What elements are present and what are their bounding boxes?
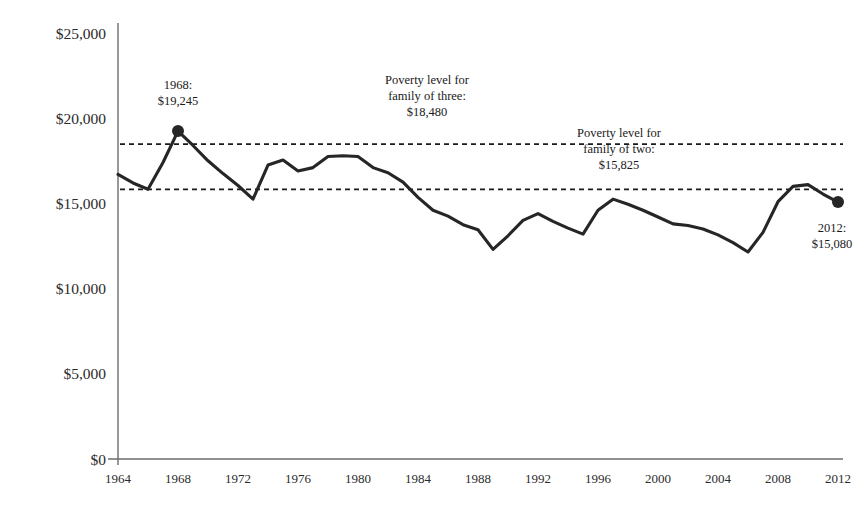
poverty-two-annotation: Poverty level forfamily of two:$15,825 bbox=[577, 126, 662, 172]
y-axis-tick-labels: $0$5,000$10,000$15,000$20,000$25,000 bbox=[56, 25, 107, 468]
y-tick-20000: $20,000 bbox=[56, 110, 107, 127]
y-tick-10000: $10,000 bbox=[56, 280, 107, 297]
peak-1968-marker bbox=[172, 125, 184, 137]
x-tick-1964: 1964 bbox=[105, 471, 132, 486]
x-tick-1996: 1996 bbox=[585, 471, 612, 486]
x-tick-2004: 2004 bbox=[705, 471, 732, 486]
data-series bbox=[118, 131, 838, 252]
y-tick-25000: $25,000 bbox=[56, 25, 107, 42]
x-tick-1972: 1972 bbox=[225, 471, 251, 486]
end-2012-marker bbox=[832, 196, 844, 208]
end-2012-annotation: 2012:$15,080 bbox=[812, 221, 853, 251]
chart-container: $0$5,000$10,000$15,000$20,000$25,000 196… bbox=[0, 0, 861, 517]
y-tick-15000: $15,000 bbox=[56, 195, 107, 212]
x-tick-1968: 1968 bbox=[165, 471, 191, 486]
poverty-three-annotation: Poverty level forfamily of three:$18,480 bbox=[385, 73, 470, 119]
peak-1968-annotation: 1968:$19,245 bbox=[158, 78, 199, 108]
x-tick-2012: 2012 bbox=[825, 471, 851, 486]
y-tick-0: $0 bbox=[91, 451, 107, 468]
reference-lines bbox=[120, 144, 843, 189]
chart-annotations: 1968:$19,245Poverty level forfamily of t… bbox=[158, 73, 853, 251]
y-tick-5000: $5,000 bbox=[63, 365, 106, 382]
x-tick-1992: 1992 bbox=[525, 471, 551, 486]
x-tick-1984: 1984 bbox=[405, 471, 432, 486]
x-tick-1988: 1988 bbox=[465, 471, 491, 486]
x-tick-1980: 1980 bbox=[345, 471, 371, 486]
x-tick-1976: 1976 bbox=[285, 471, 312, 486]
x-axis-tick-labels: 1964196819721976198019841988199219962000… bbox=[105, 471, 851, 486]
x-tick-2000: 2000 bbox=[645, 471, 671, 486]
series-line-annual-value bbox=[118, 131, 838, 252]
line-chart: $0$5,000$10,000$15,000$20,000$25,000 196… bbox=[0, 0, 861, 517]
data-point-markers bbox=[172, 125, 844, 208]
x-tick-2008: 2008 bbox=[765, 471, 791, 486]
